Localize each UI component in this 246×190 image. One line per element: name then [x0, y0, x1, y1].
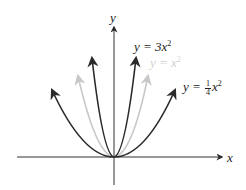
- label-three-x-squared: y = 3x2: [134, 40, 171, 53]
- x-axis-label: x: [227, 151, 233, 164]
- label-x-squared: y = x2: [150, 56, 181, 69]
- parabola-family-diagram: y x y = 3x2 y = x2 y = 14x2: [0, 0, 246, 190]
- fraction: 14: [205, 80, 211, 97]
- label-quarter-x-squared: y = 14x2: [183, 80, 222, 97]
- y-axis-label: y: [110, 11, 116, 24]
